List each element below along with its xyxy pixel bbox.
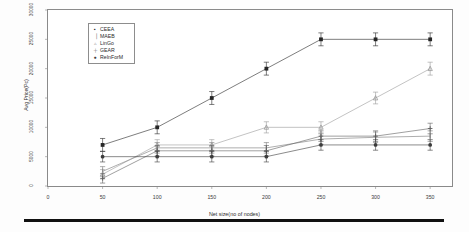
legend-label: CEEA xyxy=(100,26,114,33)
data-series-layer xyxy=(100,33,433,183)
legend-label: GEAR xyxy=(100,47,115,54)
legend-label: ReInForM xyxy=(100,54,123,61)
legend-marker-icon: ▕ xyxy=(91,33,99,40)
x-tick-label: 50 xyxy=(88,194,118,200)
y-tick-label: 20000 xyxy=(29,55,34,81)
figure-root: 050001000015000200002500030000 050100150… xyxy=(0,0,469,232)
legend-entry-gear: ＋GEAR xyxy=(91,47,132,54)
y-tick-label: 15000 xyxy=(29,85,34,111)
x-tick-label: 150 xyxy=(197,194,227,200)
legend-marker-icon: ＋ xyxy=(91,47,99,54)
legend-entry-reinform: ●ReInForM xyxy=(91,54,132,61)
x-tick-label: 200 xyxy=(251,194,281,200)
legend-entry-maeb: ▕MAEB xyxy=(91,33,132,40)
x-tick-label: 250 xyxy=(306,194,336,200)
y-tick-label: 10000 xyxy=(29,114,34,140)
chart-legend: ▪CEEA▕MAEB▵LinGo＋GEAR●ReInForM xyxy=(88,23,135,64)
y-tick-label: 30000 xyxy=(29,0,34,23)
x-tick-label: 0 xyxy=(33,194,63,200)
legend-entry-ceea: ▪CEEA xyxy=(91,26,132,33)
y-tick-label: 5000 xyxy=(29,143,34,169)
legend-marker-icon: ▪ xyxy=(91,26,99,33)
legend-label: LinGo xyxy=(100,40,114,47)
x-axis-label: Net size(no of nodes) xyxy=(0,211,469,217)
x-tick-label: 100 xyxy=(142,194,172,200)
legend-entry-lingo: ▵LinGo xyxy=(91,40,132,47)
y-tick-label: 25000 xyxy=(29,26,34,52)
legend-marker-icon: ▵ xyxy=(91,40,99,47)
series-ceea xyxy=(100,33,433,152)
chart-figure: 050001000015000200002500030000 050100150… xyxy=(0,0,469,200)
legend-label: MAEB xyxy=(100,33,115,40)
legend-marker-icon: ● xyxy=(91,54,99,61)
y-axis-label: Avg Price(Pc) xyxy=(23,60,29,130)
x-tick-label: 350 xyxy=(415,194,445,200)
x-tick-label: 300 xyxy=(361,194,391,200)
plot-canvas xyxy=(0,0,469,200)
bottom-rule xyxy=(24,219,444,222)
